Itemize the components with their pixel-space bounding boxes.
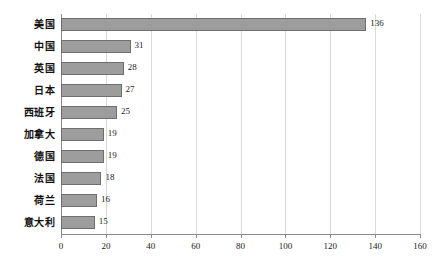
bar-row: 28 [61,58,420,80]
x-tick-label: 160 [405,240,432,252]
bar-value-label: 31 [135,38,144,53]
bar-row: 16 [61,190,420,212]
bar [61,172,101,185]
bar-row: 27 [61,80,420,102]
x-tick-label: 40 [136,240,166,252]
x-tick-mark [241,234,242,238]
x-tick-mark [61,234,62,238]
x-tick-label: 20 [91,240,121,252]
bar-value-label: 19 [108,148,117,163]
category-label: 加拿大 [0,124,55,146]
bar-row: 15 [61,212,420,234]
bar-value-label: 15 [99,214,108,229]
bar [61,18,366,31]
category-axis-labels: 美国中国英国日本西班牙加拿大德国法国荷兰意大利 [0,14,55,234]
bar-value-label: 18 [105,170,114,185]
bar [61,106,117,119]
category-label: 中国 [0,36,55,58]
x-tick-label: 100 [270,240,300,252]
bar [61,194,97,207]
category-label: 美国 [0,14,55,36]
bar [61,216,95,229]
category-label: 日本 [0,80,55,102]
x-tick-mark [420,234,421,238]
x-tick-label: 0 [46,240,76,252]
plot-area: 136312827251919181615 [61,14,420,234]
x-tick-label: 120 [315,240,345,252]
bar-value-label: 136 [370,16,384,31]
category-label: 西班牙 [0,102,55,124]
bar-row: 136 [61,14,420,36]
category-label: 德国 [0,146,55,168]
x-tick-mark [106,234,107,238]
category-label: 荷兰 [0,190,55,212]
bar-chart: 美国中国英国日本西班牙加拿大德国法国荷兰意大利 1363128272519191… [0,0,432,272]
x-tick-label: 60 [181,240,211,252]
bar [61,40,131,53]
bar-row: 19 [61,124,420,146]
x-tick-mark [196,234,197,238]
x-tick-mark [330,234,331,238]
bar [61,62,124,75]
bar [61,84,122,97]
bar-value-label: 27 [126,82,135,97]
bar-row: 18 [61,168,420,190]
x-tick-mark [375,234,376,238]
bar [61,150,104,163]
bar-row: 31 [61,36,420,58]
x-tick-mark [151,234,152,238]
category-label: 法国 [0,168,55,190]
gridline-160 [420,14,421,234]
category-label: 英国 [0,58,55,80]
bar-value-label: 19 [108,126,117,141]
x-tick-label: 140 [360,240,390,252]
bar-row: 19 [61,146,420,168]
bar-row: 25 [61,102,420,124]
bar [61,128,104,141]
bar-value-label: 16 [101,192,110,207]
x-tick-label: 80 [226,240,256,252]
bar-value-label: 25 [121,104,130,119]
bar-rows: 136312827251919181615 [61,14,420,234]
category-label: 意大利 [0,212,55,234]
x-tick-mark [285,234,286,238]
bar-value-label: 28 [128,60,137,75]
